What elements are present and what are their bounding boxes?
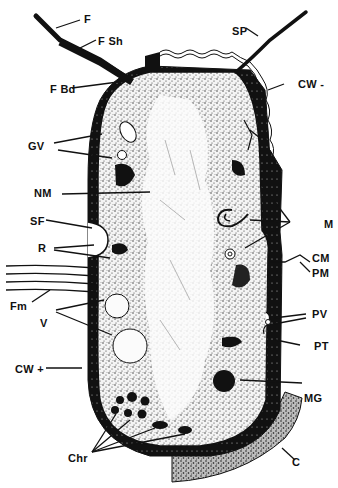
label-capsule: C	[292, 457, 300, 468]
label-septum-formation: SF	[30, 216, 45, 227]
bacterial-cell-diagram: F F Sh F Bd SP CW - GV NM SF R M CM PM F…	[0, 0, 338, 488]
label-metachromatic-granule: MG	[304, 393, 322, 404]
fimbriae	[6, 265, 96, 292]
label-ribosomes: R	[38, 243, 46, 254]
label-pit: PT	[314, 341, 329, 352]
metachromatic-granule	[213, 370, 235, 392]
label-vacuoles: V	[40, 318, 48, 329]
label-cell-wall-gram-negative: CW -	[298, 79, 324, 90]
label-plasma-membrane: PM	[312, 268, 329, 279]
label-cytoplasmic-membrane: CM	[312, 253, 330, 264]
label-pinocytotic-vesicle: PV	[312, 309, 327, 320]
flagellum-sheath	[60, 42, 132, 82]
label-spinae: SP	[232, 26, 247, 37]
label-nuclear-material: NM	[34, 188, 52, 199]
diagram-canvas	[0, 0, 338, 488]
label-flagellum-sheath: F Sh	[98, 36, 123, 47]
label-chromatophores: Chr	[68, 453, 88, 464]
label-gas-vacuoles: GV	[28, 141, 45, 152]
label-cell-wall-gram-positive: CW +	[15, 364, 44, 375]
label-flagellum-basal-body: F Bd	[50, 84, 76, 95]
label-mesosomes: M	[324, 219, 333, 230]
vacuole	[105, 294, 129, 318]
vacuole	[113, 329, 147, 363]
label-flagellum: F	[84, 14, 91, 25]
label-fimbriae: Fm	[10, 301, 27, 312]
gas-vacuole	[118, 151, 127, 160]
